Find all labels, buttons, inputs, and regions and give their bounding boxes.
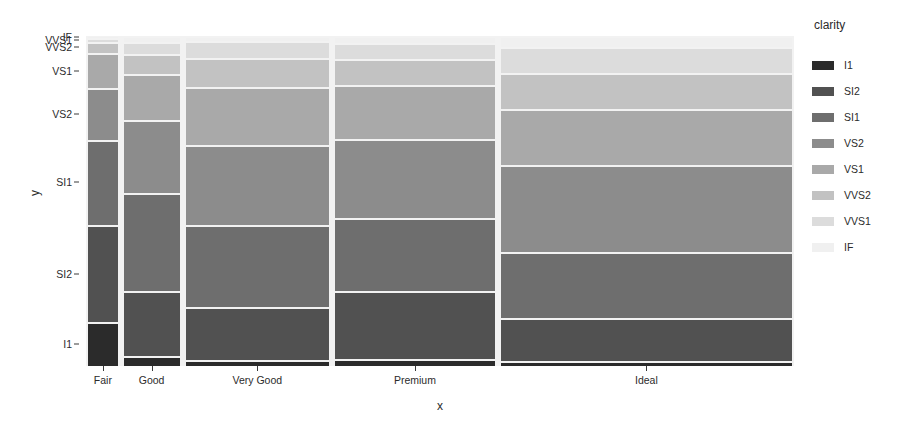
legend-item-if[interactable]: IF (812, 234, 912, 260)
legend-item-label: IF (844, 241, 853, 253)
mosaic-segment-si2[interactable] (186, 309, 329, 360)
mosaic-segment-si1[interactable] (88, 142, 118, 225)
mosaic-segment-vvs2[interactable] (335, 61, 495, 84)
y-axis-tick-mark (74, 182, 79, 183)
mosaic-segment-vvs1[interactable] (335, 45, 495, 59)
legend-key-swatch-icon (812, 139, 834, 148)
legend-key-swatch-icon (812, 165, 834, 174)
legend-item-i1[interactable]: I1 (812, 52, 912, 78)
mosaic-segment-if[interactable] (186, 38, 329, 41)
mosaic-column-good[interactable] (124, 36, 180, 366)
x-axis-tick-label-good: Good (139, 374, 165, 386)
mosaic-segment-vs1[interactable] (88, 55, 118, 88)
x-axis-tick-label-very-good: Very Good (232, 374, 282, 386)
legend-item-vs1[interactable]: VS1 (812, 156, 912, 182)
mosaic-segment-si2[interactable] (88, 227, 118, 322)
mosaic-segment-if[interactable] (501, 38, 792, 47)
mosaic-segment-vvs1[interactable] (88, 40, 118, 42)
plot-panel (86, 36, 794, 366)
legend-item-label: SI1 (844, 111, 860, 123)
mosaic-segment-if[interactable] (124, 38, 180, 42)
x-axis-tick-mark (646, 366, 647, 371)
y-axis-tick-mark (74, 113, 79, 114)
x-axis-tick-label-fair: Fair (94, 374, 112, 386)
mosaic-segment-vvs2[interactable] (124, 56, 180, 75)
x-axis-tick-mark (152, 366, 153, 371)
y-axis: I1SI2SI1VS2VS1VVS2VVS1IF (0, 36, 86, 366)
legend-item-label: SI2 (844, 85, 860, 97)
x-axis-tick-mark (415, 366, 416, 371)
mosaic-segment-if[interactable] (335, 38, 495, 43)
y-axis-tick-mark (74, 273, 79, 274)
y-axis-tick-label-if: IF (63, 31, 72, 42)
mosaic-segment-vs2[interactable] (88, 90, 118, 140)
x-axis-tick-label-premium: Premium (394, 374, 436, 386)
y-axis-title: y (28, 190, 42, 196)
mosaic-segment-si2[interactable] (335, 293, 495, 359)
y-axis-tick-mark (74, 36, 79, 37)
y-axis-tick-mark (74, 344, 79, 345)
x-axis-tick-label-ideal: Ideal (635, 374, 658, 386)
legend-item-vs2[interactable]: VS2 (812, 130, 912, 156)
x-axis-tick-mark (257, 366, 258, 371)
mosaic-segment-vs2[interactable] (335, 141, 495, 218)
mosaic-segment-vvs1[interactable] (124, 44, 180, 54)
mosaic-column-very-good[interactable] (186, 36, 329, 366)
x-axis-title: x (437, 399, 443, 413)
legend-item-si1[interactable]: SI1 (812, 104, 912, 130)
legend-item-vvs1[interactable]: VVS1 (812, 208, 912, 234)
legend-item-label: VVS1 (844, 215, 871, 227)
legend-item-label: VVS2 (844, 189, 871, 201)
mosaic-column-ideal[interactable] (501, 36, 792, 366)
mosaic-segment-si1[interactable] (186, 227, 329, 307)
legend-item-label: I1 (844, 59, 853, 71)
mosaic-column-fair[interactable] (88, 36, 118, 366)
legend: clarity I1SI2SI1VS2VS1VVS2VVS1IF (812, 18, 912, 260)
legend-item-label: VS1 (844, 163, 864, 175)
mosaic-segment-vvs2[interactable] (186, 60, 329, 86)
mosaic-segment-vvs1[interactable] (501, 49, 792, 73)
x-axis: FairGoodVery GoodPremiumIdeal (86, 366, 794, 396)
mosaic-segment-vvs2[interactable] (88, 44, 118, 54)
mosaic-segment-vs2[interactable] (124, 122, 180, 193)
y-axis-tick-label-vs1: VS1 (52, 65, 72, 76)
mosaic-column-premium[interactable] (335, 36, 495, 366)
mosaic-segment-si2[interactable] (124, 293, 180, 356)
y-axis-tick-label-si2: SI2 (56, 268, 72, 279)
y-axis-tick-mark (74, 70, 79, 71)
mosaic-segment-vs2[interactable] (501, 167, 792, 251)
mosaic-segment-if[interactable] (88, 37, 118, 38)
mosaic-segment-vs1[interactable] (335, 87, 495, 139)
mosaic-segment-si1[interactable] (335, 220, 495, 291)
mosaic-segment-vs2[interactable] (186, 147, 329, 226)
mosaic-segment-vs1[interactable] (186, 89, 329, 145)
legend-key-swatch-icon (812, 191, 834, 200)
mosaic-segment-si1[interactable] (501, 254, 792, 318)
legend-key-swatch-icon (812, 113, 834, 122)
y-axis-tick-mark (74, 47, 79, 48)
mosaic-segment-vs1[interactable] (124, 76, 180, 120)
legend-key-swatch-icon (812, 61, 834, 70)
legend-key-swatch-icon (812, 87, 834, 96)
legend-key-swatch-icon (812, 243, 834, 252)
y-axis-tick-label-i1: I1 (63, 339, 72, 350)
y-axis-tick-label-si1: SI1 (56, 177, 72, 188)
mosaic-plot-figure: I1SI2SI1VS2VS1VVS2VVS1IF y FairGoodVery … (0, 0, 914, 425)
legend-items: I1SI2SI1VS2VS1VVS2VVS1IF (812, 52, 912, 260)
mosaic-segment-si2[interactable] (501, 320, 792, 361)
legend-title: clarity (814, 18, 912, 32)
mosaic-segment-si1[interactable] (124, 195, 180, 291)
legend-item-si2[interactable]: SI2 (812, 78, 912, 104)
mosaic-segment-i1[interactable] (88, 324, 118, 366)
legend-item-vvs2[interactable]: VVS2 (812, 182, 912, 208)
y-axis-tick-label-vs2: VS2 (52, 108, 72, 119)
mosaic-segment-vs1[interactable] (501, 111, 792, 165)
mosaic-segment-i1[interactable] (124, 358, 180, 366)
mosaic-segment-vvs2[interactable] (501, 75, 792, 110)
x-axis-tick-mark (103, 366, 104, 371)
y-axis-tick-mark (74, 39, 79, 40)
mosaic-segment-vvs1[interactable] (186, 43, 329, 58)
legend-key-swatch-icon (812, 217, 834, 226)
legend-item-label: VS2 (844, 137, 864, 149)
